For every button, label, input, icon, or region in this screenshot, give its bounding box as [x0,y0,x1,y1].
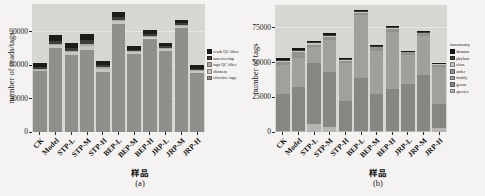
bar-segment [276,60,289,61]
legend-key-swatch [207,62,212,67]
x-tick-mark [55,132,56,135]
y-tick-mark [272,27,275,28]
bar-segment [307,47,320,62]
bar-segment [127,51,141,52]
y-tick-mark [29,65,32,66]
legend-item: family [450,75,470,80]
legend-item-label: family [456,75,467,80]
bar-segment [339,59,352,60]
legend-item-label: domain [456,49,469,54]
bar-segment [307,42,320,43]
bar-segment [49,35,63,41]
panel-caption-b: (b) [373,178,383,188]
bar-segment [159,43,173,46]
x-tick-mark [392,132,393,135]
x-tick-mark [87,132,88,135]
bar-segment [49,41,63,44]
legend-key-swatch [450,82,455,87]
bar-segment [96,67,110,69]
bar-segment [354,10,367,11]
bar-segment [354,15,367,77]
bar-segment [417,75,430,131]
bar-segment [112,12,126,17]
legend-key-swatch [207,49,212,54]
bar-segment [112,24,126,132]
bar-segment [80,46,94,50]
bar-segment [386,26,399,27]
x-tick-mark [181,132,182,135]
x-tick-mark [329,132,330,135]
x-tick-mark [71,132,72,135]
y-tick-label: 0 [241,128,271,136]
y-axis-title-b: number of tags [250,43,260,94]
bar-segment [190,70,204,71]
bar-segment [112,17,126,19]
bar-segment [417,36,430,75]
y-tick-label: 30000 [0,95,28,103]
bar-segment [432,63,445,64]
legend-item: tags QC filter [207,62,239,67]
x-tick-mark [102,132,103,135]
bar-segment [143,34,157,36]
legend-key-swatch [450,89,455,94]
y-tick-label: 75000 [241,24,271,32]
bar-segment [339,59,352,60]
bar-segment [354,11,367,12]
bar-segment [175,28,189,132]
bar-segment [276,62,289,65]
bar-segment [370,46,383,47]
x-tick-mark [298,132,299,135]
y-tick-mark [29,31,32,32]
legend-key-swatch [450,76,455,81]
bar-segment [292,87,305,131]
bar-segment [175,23,189,25]
bar-segment [370,47,383,50]
bar-segment [127,50,141,52]
bar-segment [143,37,157,39]
bar-segment [159,46,173,48]
bar-segment [80,40,94,43]
bar-segment [33,67,47,69]
bar-segment [323,35,336,36]
bar-segment [339,101,352,130]
legend-item: domain [450,49,470,54]
bar-segment [276,65,289,93]
legend-key-swatch [450,56,455,61]
bar-segment [307,45,320,48]
bar-segment [323,72,336,127]
figure-two-panel-stacked-bars: number of reads/tags reads QC filternon-… [0,0,485,196]
legend-item-label: tags QC filter [213,62,236,67]
bar-segment [159,49,173,51]
bar-segment [370,45,383,46]
x-tick-mark [376,132,377,135]
bar-segment [33,70,47,72]
x-tick-mark [314,132,315,135]
x-tick-mark [165,132,166,135]
bar-segment [354,12,367,13]
bar-segment [292,51,305,52]
legend-item: phylum [450,56,470,61]
x-tick-mark [118,132,119,135]
bar-segment [175,25,189,26]
x-tick-mark [423,132,424,135]
legend-a: reads QC filternon-overlaptags QC filter… [207,49,239,82]
legend-key-swatch [207,56,212,61]
bar-segment [339,61,352,63]
y-tick-mark [272,97,275,98]
bar-segment [65,51,79,53]
bar-segment [112,20,126,22]
legend-item: effective tags [207,75,239,80]
legend-item-label: non-overlap [213,56,234,61]
legend-item: species [450,89,470,94]
bar-segment [292,52,305,58]
legend-item-label: species [456,89,468,94]
bar-segment [49,44,63,46]
bar-segment [417,33,430,36]
x-axis-title-a: 样品 [131,166,149,178]
bar-segment [80,50,94,132]
x-tick-mark [345,132,346,135]
bar-segment [354,13,367,16]
y-tick-label: 50000 [241,59,271,67]
legend-item: order [450,69,470,74]
panel-caption-a: (a) [135,178,144,188]
